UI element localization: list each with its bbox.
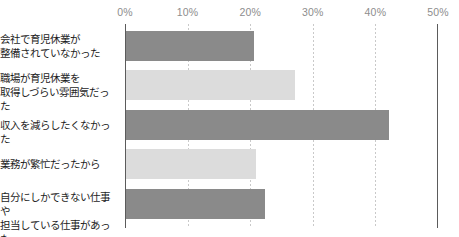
bar (126, 70, 295, 100)
x-tick-label: 40% (365, 6, 387, 18)
category-label: 会社で育児休業が 整備されていなかった (0, 32, 118, 60)
bar (126, 149, 256, 179)
x-tick-label: 0% (117, 6, 133, 18)
category-label: 収入を減らしたくなかった (0, 118, 118, 146)
category-label: 業務が繁忙だったから (0, 157, 118, 171)
axis-line-max (437, 24, 438, 228)
bar (126, 110, 389, 140)
x-tick-label: 10% (177, 6, 199, 18)
x-tick-label: 50% (427, 6, 449, 18)
bar (126, 189, 265, 219)
bar (126, 31, 254, 61)
x-tick-label: 20% (239, 6, 261, 18)
category-label: 職場が育児休業を 取得しづらい雰囲気だった (0, 71, 118, 113)
category-label: 自分にしかできない仕事や 担当している仕事があった (0, 190, 118, 237)
x-tick-label: 30% (302, 6, 324, 18)
bar-chart: 0%10%20%30%40%50% 会社で育児休業が 整備されていなかった職場が… (0, 0, 459, 237)
